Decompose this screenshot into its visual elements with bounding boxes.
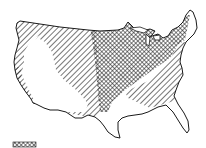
region-fills [10,15,190,118]
legend-crosshatch-swatch [13,142,36,147]
us-map [0,0,206,148]
